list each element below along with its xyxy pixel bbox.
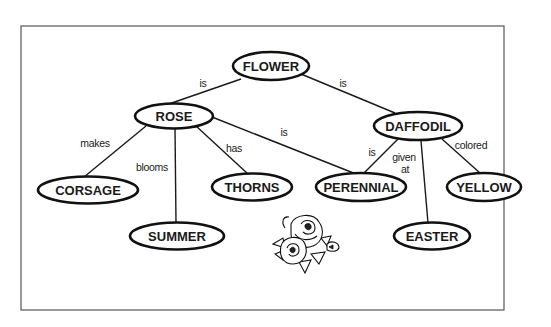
edge-label-rose-perennial: is <box>281 126 288 138</box>
node-rose: ROSE <box>135 104 213 129</box>
edge-rose-summer <box>175 128 176 223</box>
node-flower-label: FLOWER <box>243 59 300 74</box>
node-flower: FLOWER <box>233 52 309 80</box>
node-corsage-label: CORSAGE <box>55 183 121 198</box>
node-easter: EASTER <box>394 223 470 250</box>
rose-bottom-center <box>290 247 295 253</box>
edge-label-daffodil-yellow: colored <box>455 139 488 151</box>
node-corsage: CORSAGE <box>38 177 138 204</box>
edge-label-flower-daffodil: is <box>340 77 347 89</box>
node-yellow-label: YELLOW <box>456 180 512 195</box>
node-yellow: YELLOW <box>447 173 521 201</box>
edge-label-daffodil-easter-line1: given <box>392 151 416 163</box>
node-summer: SUMMER <box>130 223 224 250</box>
node-thorns: THORNS <box>212 174 292 201</box>
edge-label-flower-rose: is <box>200 77 207 89</box>
edge-label-daffodil-perennial: is <box>369 146 376 158</box>
node-thorns-label: THORNS <box>225 180 280 195</box>
node-perennial-label: PERENNIAL <box>323 180 398 195</box>
node-perennial: PERENNIAL <box>316 173 406 201</box>
node-easter-label: EASTER <box>406 229 459 244</box>
edge-label-daffodil-easter-line2: at <box>401 163 410 175</box>
edge-label-rose-corsage: makes <box>80 137 109 149</box>
node-summer-label: SUMMER <box>148 229 206 244</box>
rose-top-center <box>305 224 311 230</box>
edge-label-rose-summer: blooms <box>136 161 168 173</box>
node-daffodil: DAFFODIL <box>374 112 462 140</box>
node-rose-label: ROSE <box>156 109 193 124</box>
edge-label-rose-thorns: has <box>226 142 242 154</box>
node-daffodil-label: DAFFODIL <box>385 119 451 134</box>
semantic-network-diagram: is is makes blooms has is is given at co… <box>0 0 551 327</box>
